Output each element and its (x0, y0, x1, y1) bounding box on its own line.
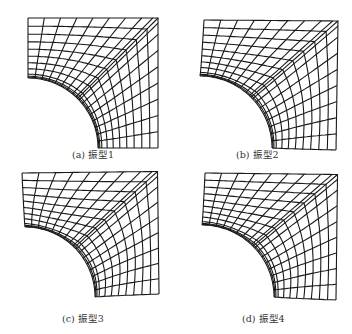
caption-b: (b) 振型2 (236, 147, 279, 161)
mesh-mode-2 (176, 0, 352, 167)
caption-a: (a) 振型1 (72, 147, 114, 161)
panel-b-mode-2: (b) 振型2 (176, 0, 352, 167)
panel-c-mode-3: (c) 振型3 (0, 167, 176, 334)
mesh-mode-4 (176, 167, 352, 334)
panel-a-mode-1: (a) 振型1 (0, 0, 176, 167)
caption-d: (d) 振型4 (242, 311, 285, 325)
caption-c: (c) 振型3 (62, 311, 104, 325)
panel-d-mode-4: (d) 振型4 (176, 167, 352, 334)
mesh-mode-1 (0, 0, 176, 167)
mesh-mode-3 (0, 167, 176, 334)
